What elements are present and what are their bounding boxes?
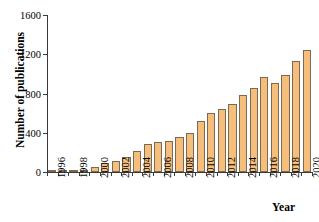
bar bbox=[281, 75, 289, 172]
x-tick-label: 2014 bbox=[247, 157, 258, 178]
x-tick-mark bbox=[111, 172, 112, 176]
x-tick-label: 2006 bbox=[162, 157, 173, 178]
x-tick-label: 1996 bbox=[56, 157, 67, 178]
x-tick-mark bbox=[301, 172, 302, 176]
x-tick-mark bbox=[259, 172, 260, 176]
x-tick-label: 1998 bbox=[78, 157, 89, 178]
y-tick-label: 1200 bbox=[20, 49, 41, 60]
x-tick-label: 2010 bbox=[205, 157, 216, 178]
x-tick-label: 2016 bbox=[268, 157, 279, 178]
plot-area: 040080012001600 199619982000200220042006… bbox=[47, 15, 312, 172]
y-tick-label: 400 bbox=[25, 127, 41, 138]
bar bbox=[239, 95, 247, 172]
x-tick-mark bbox=[153, 172, 154, 176]
x-tick-label: 2018 bbox=[290, 157, 301, 178]
bar bbox=[112, 161, 120, 172]
bar bbox=[197, 121, 205, 172]
bar bbox=[69, 170, 77, 172]
y-tick-label: 800 bbox=[25, 88, 41, 99]
x-tick-label: 2020 bbox=[311, 157, 319, 178]
x-tick-mark bbox=[89, 172, 90, 176]
x-tick-mark bbox=[174, 172, 175, 176]
x-tick-label: 2012 bbox=[226, 157, 237, 178]
x-tick-mark bbox=[68, 172, 69, 176]
y-axis-title: Number of publications bbox=[14, 15, 26, 165]
x-axis-title: Year bbox=[272, 201, 295, 213]
x-tick-label: 2000 bbox=[99, 157, 110, 178]
bar bbox=[218, 109, 226, 172]
bar bbox=[175, 137, 183, 172]
x-tick-mark bbox=[280, 172, 281, 176]
x-tick-mark bbox=[238, 172, 239, 176]
publications-bar-chart: Number of publications 040080012001600 1… bbox=[0, 0, 319, 222]
x-tick-label: 2002 bbox=[120, 157, 131, 178]
y-tick-label: 1600 bbox=[20, 10, 41, 21]
x-tick-label: 2004 bbox=[141, 157, 152, 178]
x-tick-mark bbox=[195, 172, 196, 176]
x-tick-label: 2008 bbox=[184, 157, 195, 178]
bar bbox=[133, 151, 141, 172]
bar-series bbox=[47, 15, 312, 172]
bar bbox=[91, 167, 99, 172]
x-tick-mark bbox=[132, 172, 133, 176]
x-tick-mark bbox=[217, 172, 218, 176]
x-tick-mark bbox=[47, 172, 48, 176]
y-tick-label: 0 bbox=[36, 167, 41, 178]
bar bbox=[292, 61, 300, 172]
bar bbox=[303, 50, 311, 172]
